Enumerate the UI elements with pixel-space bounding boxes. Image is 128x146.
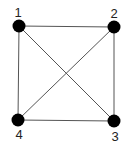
node-label-2: 2 xyxy=(110,6,117,21)
node-4 xyxy=(12,114,25,127)
node-label-1: 1 xyxy=(14,5,21,20)
edges xyxy=(18,26,114,121)
node-2 xyxy=(108,21,121,34)
node-label-3: 3 xyxy=(111,129,118,144)
edge-4-1 xyxy=(18,26,19,120)
node-label-4: 4 xyxy=(15,127,22,142)
edge-1-2 xyxy=(19,26,114,27)
graph-diagram: 1234 xyxy=(0,0,128,146)
node-1 xyxy=(13,20,26,33)
edge-3-4 xyxy=(18,120,114,121)
node-3 xyxy=(108,115,121,128)
